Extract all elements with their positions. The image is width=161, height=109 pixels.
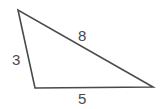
side-length-label-top: 8 [78, 28, 86, 43]
side-length-label-left: 3 [12, 52, 20, 67]
side-length-label-bottom: 5 [78, 91, 86, 106]
triangle-outline [18, 10, 153, 88]
triangle-diagram: 8 3 5 [0, 0, 161, 109]
